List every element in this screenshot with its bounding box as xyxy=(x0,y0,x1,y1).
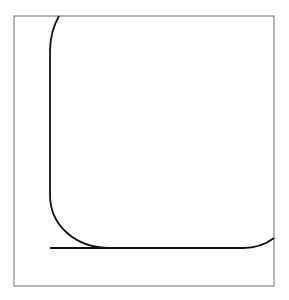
rounded-curve xyxy=(50,16,274,248)
frame-border xyxy=(14,16,274,286)
diagram-canvas xyxy=(0,0,289,300)
